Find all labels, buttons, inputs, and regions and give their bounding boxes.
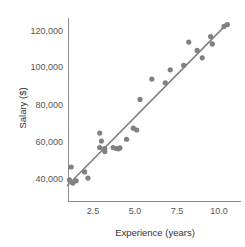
data-point (97, 145, 102, 150)
data-point (134, 127, 139, 132)
x-tick-label: 5.0 (129, 206, 142, 216)
data-point (186, 40, 191, 45)
x-tick-label: 2.5 (87, 206, 100, 216)
data-series-layer (67, 22, 230, 186)
data-point (99, 138, 104, 143)
data-point (69, 164, 74, 169)
x-axis-title: Experience (years) (115, 227, 195, 238)
y-tick-label: 120,000 (30, 26, 63, 36)
y-tick-label: 100,000 (30, 62, 63, 72)
x-tick-label: 10.0 (210, 206, 228, 216)
regression-line (67, 23, 228, 186)
data-point (149, 77, 154, 82)
y-tick-label: 80,000 (35, 100, 63, 110)
y-tick-label: 40,000 (35, 174, 63, 184)
data-point (85, 175, 90, 180)
scatter-chart: 120,000 100,000 80,000 60,000 40,000 2.5… (0, 0, 245, 247)
y-axis-title: Salary ($) (17, 87, 28, 128)
data-point (210, 41, 215, 46)
x-tick-label: 7.5 (171, 206, 184, 216)
plot-area: 120,000 100,000 80,000 60,000 40,000 2.5… (0, 0, 245, 247)
data-point (200, 55, 205, 60)
data-point (124, 137, 129, 142)
data-point (97, 131, 102, 136)
data-point (168, 67, 173, 72)
data-point (117, 145, 122, 150)
y-tick-label: 60,000 (35, 137, 63, 147)
data-point (137, 97, 142, 102)
